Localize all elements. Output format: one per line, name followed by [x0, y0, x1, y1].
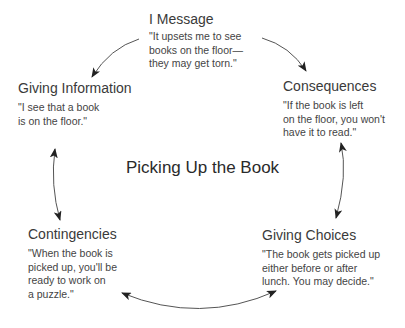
arrow-choices-contingencies	[122, 291, 276, 309]
node-giving-information: Giving Information "I see that a book is…	[18, 80, 132, 128]
arrow-consequences-choices	[336, 143, 344, 218]
node-title: Consequences	[283, 78, 385, 95]
node-i-message: I Message "It upsets me to see books on …	[149, 11, 243, 71]
node-quote: "The book gets picked up either before o…	[262, 248, 380, 289]
center-title: Picking Up the Book	[126, 158, 279, 178]
arrow-contingencies-information	[53, 149, 60, 220]
node-quote: "I see that a book is on the floor."	[18, 101, 132, 128]
node-title: Contingencies	[28, 226, 117, 243]
node-consequences: Consequences "If the book is left on the…	[283, 78, 385, 140]
arrow-imessage-to-consequences	[262, 38, 306, 71]
node-title: Giving Choices	[262, 227, 380, 244]
node-title: Giving Information	[18, 80, 132, 97]
node-quote: "If the book is left on the floor, you w…	[283, 99, 385, 140]
node-giving-choices: Giving Choices "The book gets picked up …	[262, 227, 380, 289]
node-contingencies: Contingencies "When the book is picked u…	[28, 226, 117, 301]
arrow-imessage-to-information	[92, 39, 139, 77]
node-quote: "It upsets me to see books on the floor—…	[149, 30, 243, 71]
node-quote: "When the book is picked up, you'll be r…	[28, 247, 117, 301]
node-title: I Message	[149, 11, 243, 28]
